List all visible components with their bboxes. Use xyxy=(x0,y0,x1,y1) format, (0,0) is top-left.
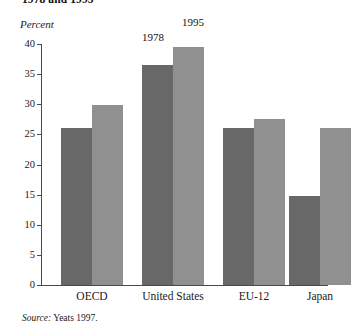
y-tick-label: 30 xyxy=(25,99,36,110)
category-label: United States xyxy=(142,291,204,303)
y-axis-line xyxy=(41,44,42,285)
y-tick-label: 5 xyxy=(30,250,35,261)
y-tick-label: 15 xyxy=(25,189,36,200)
y-tick-label: 0 xyxy=(30,280,35,291)
y-tick-mark xyxy=(37,44,41,45)
chart-title: 1978 and 1995 xyxy=(22,0,94,5)
y-tick-mark xyxy=(37,255,41,256)
bar xyxy=(289,196,320,285)
y-tick-mark xyxy=(37,134,41,135)
series-annotation-1995: 1995 xyxy=(182,17,204,28)
y-tick-mark xyxy=(37,74,41,75)
bar xyxy=(173,47,204,285)
y-tick-mark xyxy=(37,195,41,196)
category-label: Japan xyxy=(307,291,333,303)
y-tick-mark xyxy=(37,225,41,226)
category-label: EU-12 xyxy=(239,291,270,303)
bar xyxy=(92,105,123,285)
series-annotation-1978: 1978 xyxy=(142,32,164,43)
y-tick-mark xyxy=(37,104,41,105)
y-tick-mark xyxy=(37,165,41,166)
bar-group xyxy=(61,44,123,285)
y-tick-label: 25 xyxy=(25,129,36,140)
bar-group xyxy=(142,44,204,285)
source-label: Source: xyxy=(22,313,51,323)
bar xyxy=(320,128,351,285)
y-tick-label: 10 xyxy=(25,220,36,231)
y-tick-label: 20 xyxy=(25,159,36,170)
bar-group xyxy=(223,44,285,285)
category-label: OECD xyxy=(76,291,107,303)
y-axis-label: Percent xyxy=(20,18,54,30)
bar-group xyxy=(289,44,351,285)
plot-area: 0510152025303540 1978 1995 OECDUnited St… xyxy=(41,44,328,285)
bar xyxy=(223,128,254,285)
bar xyxy=(61,128,92,285)
bar xyxy=(142,65,173,286)
y-tick-label: 35 xyxy=(25,69,36,80)
source-text: Yeats 1997. xyxy=(51,313,97,323)
bar xyxy=(254,119,285,285)
x-axis-line xyxy=(41,285,328,286)
source-note: Source: Yeats 1997. xyxy=(22,313,98,323)
y-tick-mark xyxy=(37,285,41,286)
y-tick-label: 40 xyxy=(25,39,36,50)
